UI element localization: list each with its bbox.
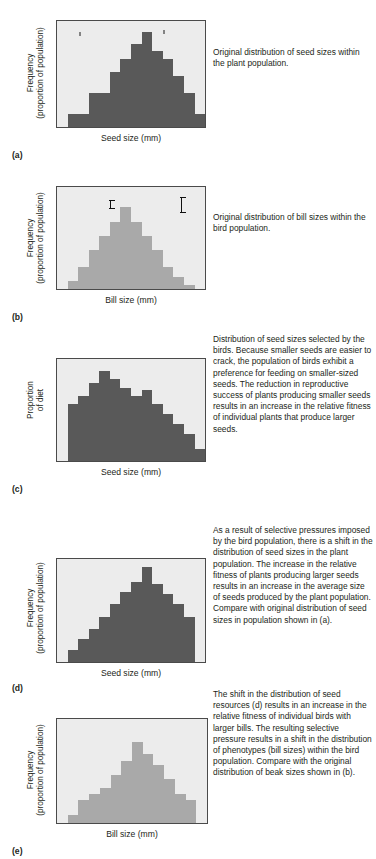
panel-d: Frequency (proportion of population) See… bbox=[0, 500, 376, 685]
panel-e-ylabel-line1: Frequency bbox=[26, 715, 36, 825]
histogram-bar bbox=[184, 617, 195, 662]
panel-c-bars bbox=[57, 359, 205, 461]
histogram-bar bbox=[89, 383, 100, 461]
histogram-bar bbox=[68, 650, 79, 662]
histogram-bar bbox=[78, 267, 89, 289]
histogram-bar bbox=[131, 582, 142, 662]
histogram-bar bbox=[99, 617, 110, 662]
panel-e-plot bbox=[56, 718, 208, 824]
panel-c-ylabel: Proportion of diet bbox=[26, 345, 48, 455]
panel-b-plot bbox=[56, 186, 206, 290]
panel-a-letter: (a) bbox=[12, 150, 23, 160]
histogram-bar bbox=[184, 434, 195, 461]
histogram-bar bbox=[142, 32, 153, 127]
histogram-bar bbox=[68, 404, 79, 461]
panel-e-caption: The shift in the distribution of seed re… bbox=[213, 689, 373, 779]
panel-b-xlabel: Bill size (mm) bbox=[56, 295, 206, 305]
histogram-bar bbox=[89, 794, 100, 823]
histogram-bar bbox=[99, 371, 110, 461]
panel-c-caption: Distribution of seed sizes selected by t… bbox=[213, 334, 373, 435]
histogram-bar bbox=[110, 604, 121, 662]
histogram-bar bbox=[175, 794, 186, 823]
histogram-bar bbox=[173, 604, 184, 662]
histogram-bar bbox=[131, 396, 142, 461]
panel-c-xlabel: Seed size (mm) bbox=[56, 467, 206, 477]
panel-a-xlabel: Seed size (mm) bbox=[56, 133, 206, 143]
large-bill-measure-bracket bbox=[181, 197, 182, 213]
histogram-bar bbox=[163, 414, 174, 461]
histogram-bar bbox=[110, 72, 121, 127]
histogram-bar bbox=[152, 250, 163, 289]
histogram-bar bbox=[100, 788, 111, 823]
histogram-bar bbox=[164, 779, 175, 823]
histogram-bar bbox=[78, 639, 89, 662]
panel-d-ylabel: Frequency (proportion of population) bbox=[26, 553, 48, 663]
histogram-bar bbox=[184, 285, 195, 289]
histogram-bar bbox=[111, 775, 122, 823]
histogram-bar bbox=[120, 59, 131, 127]
panel-e: Frequency (proportion of population) Bil… bbox=[0, 685, 376, 859]
histogram-bar bbox=[195, 449, 206, 461]
histogram-bar bbox=[142, 236, 153, 289]
histogram-bar bbox=[152, 51, 163, 127]
histogram-bar bbox=[131, 44, 142, 127]
histogram-bar bbox=[142, 567, 153, 662]
panel-e-ylabel: Frequency (proportion of population) bbox=[26, 715, 48, 825]
histogram-bar bbox=[78, 800, 89, 823]
panel-a-ylabel: Frequency (proportion of population) bbox=[26, 18, 48, 128]
panel-e-bars bbox=[57, 719, 207, 823]
panel-d-xlabel: Seed size (mm) bbox=[56, 668, 206, 678]
panel-d-bars bbox=[57, 559, 205, 662]
histogram-bar bbox=[99, 93, 110, 127]
panel-b: Frequency (proportion of population) Bil… bbox=[0, 175, 376, 325]
panel-c: Proportion of diet Seed size (mm) (c) Di… bbox=[0, 325, 376, 495]
histogram-bar bbox=[173, 277, 184, 289]
histogram-bar bbox=[78, 114, 89, 127]
histogram-bar bbox=[173, 76, 184, 127]
histogram-bar bbox=[89, 93, 100, 127]
panel-a-ylabel-line1: Frequency bbox=[26, 18, 36, 128]
histogram-bar bbox=[110, 222, 121, 289]
histogram-bar bbox=[68, 114, 79, 127]
histogram-bar bbox=[186, 800, 197, 823]
panel-a-ylabel-line2: (proportion of population) bbox=[36, 18, 46, 128]
histogram-bar bbox=[163, 267, 174, 289]
panel-e-xlabel: Bill size (mm) bbox=[56, 829, 208, 839]
histogram-bar bbox=[195, 114, 206, 127]
histogram-bar bbox=[152, 584, 163, 662]
panel-b-ylabel-line2: (proportion of population) bbox=[36, 183, 46, 293]
histogram-bar bbox=[89, 250, 100, 289]
panel-d-plot bbox=[56, 558, 206, 663]
panel-a-plot bbox=[56, 20, 206, 128]
histogram-bar bbox=[143, 754, 154, 823]
panel-c-ylabel-line2: of diet bbox=[36, 345, 46, 455]
panel-b-bars bbox=[57, 187, 205, 289]
histogram-bar bbox=[68, 281, 79, 289]
histogram-bar bbox=[68, 815, 79, 823]
panel-c-letter: (c) bbox=[12, 484, 23, 494]
small-bill-measure-bracket bbox=[110, 200, 111, 209]
panel-c-plot bbox=[56, 358, 206, 462]
figure-root: Frequency (proportion of population) See… bbox=[0, 0, 376, 859]
histogram-bar bbox=[173, 424, 184, 461]
panel-b-ylabel-line1: Frequency bbox=[26, 183, 36, 293]
panel-a-bars bbox=[57, 21, 205, 127]
histogram-bar bbox=[121, 761, 132, 823]
panel-c-ylabel-line1: Proportion bbox=[26, 345, 36, 455]
histogram-bar bbox=[120, 207, 131, 289]
histogram-bar bbox=[131, 222, 142, 289]
panel-d-ylabel-line1: Frequency bbox=[26, 553, 36, 663]
histogram-bar bbox=[152, 404, 163, 461]
panel-b-caption: Original distribution of bill sizes with… bbox=[213, 212, 373, 234]
panel-d-caption: As a result of selective pressures impos… bbox=[213, 525, 373, 626]
histogram-bar bbox=[153, 765, 164, 823]
histogram-bar bbox=[110, 379, 121, 461]
histogram-bar bbox=[78, 396, 89, 461]
histogram-bar bbox=[89, 629, 100, 662]
histogram-bar bbox=[120, 388, 131, 461]
histogram-bar bbox=[184, 93, 195, 127]
histogram-bar bbox=[99, 236, 110, 289]
panel-e-letter: (e) bbox=[12, 846, 23, 856]
panel-e-ylabel-line2: (proportion of population) bbox=[36, 715, 46, 825]
histogram-bar bbox=[163, 594, 174, 662]
